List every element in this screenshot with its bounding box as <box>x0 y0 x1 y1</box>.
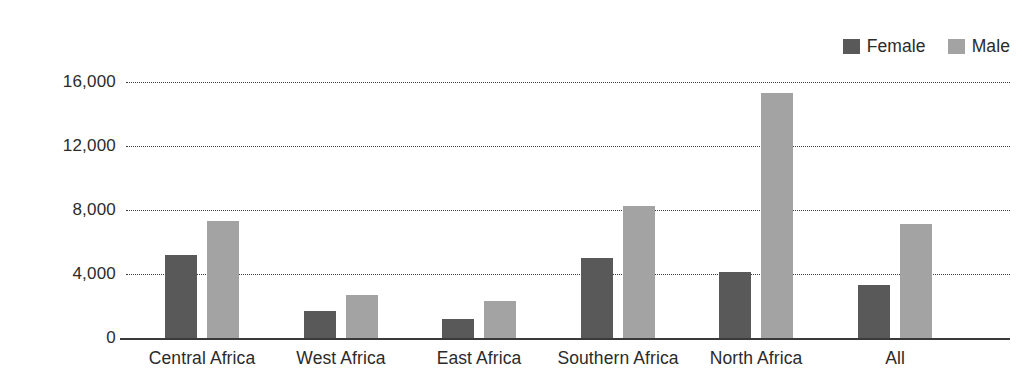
bar-central-africa-female <box>165 255 197 338</box>
legend-swatch-female <box>843 39 860 54</box>
legend-item-female: Female <box>843 36 926 57</box>
bar-all-male <box>900 224 932 338</box>
y-tick-16000: 16,000 <box>63 72 116 92</box>
x-tick-central-africa: Central Africa <box>149 348 255 369</box>
y-tick-4000: 4,000 <box>72 264 116 284</box>
y-tick-8000: 8,000 <box>72 200 116 220</box>
bar-chart: Female Male 16,000 12,000 8,000 4,000 0 … <box>0 0 1024 383</box>
x-axis: Central Africa West Africa East Africa S… <box>126 348 1010 378</box>
bar-southern-africa-female <box>581 258 613 338</box>
x-tick-east-africa: East Africa <box>437 348 522 369</box>
y-axis: 16,000 12,000 8,000 4,000 0 <box>0 0 116 383</box>
bar-east-africa-male <box>484 301 516 338</box>
x-axis-line <box>120 338 1010 340</box>
x-tick-all: All <box>885 348 905 369</box>
bar-west-africa-female <box>304 311 336 338</box>
bar-east-africa-female <box>442 319 474 338</box>
y-tick-0: 0 <box>106 328 116 348</box>
plot-area <box>126 82 1010 338</box>
bar-southern-africa-male <box>623 206 655 338</box>
bar-all-female <box>858 285 890 338</box>
legend-swatch-male <box>948 39 965 54</box>
x-tick-west-africa: West Africa <box>296 348 385 369</box>
bar-west-africa-male <box>346 295 378 338</box>
x-tick-north-africa: North Africa <box>710 348 803 369</box>
x-tick-southern-africa: Southern Africa <box>557 348 678 369</box>
bar-north-africa-male <box>761 93 793 338</box>
bar-north-africa-female <box>719 272 751 338</box>
chart-legend: Female Male <box>843 36 1010 57</box>
legend-label-female: Female <box>867 36 926 57</box>
y-tick-12000: 12,000 <box>63 136 116 156</box>
legend-label-male: Male <box>972 36 1010 57</box>
bar-central-africa-male <box>207 221 239 338</box>
legend-item-male: Male <box>948 36 1010 57</box>
bars-layer <box>126 82 1010 338</box>
